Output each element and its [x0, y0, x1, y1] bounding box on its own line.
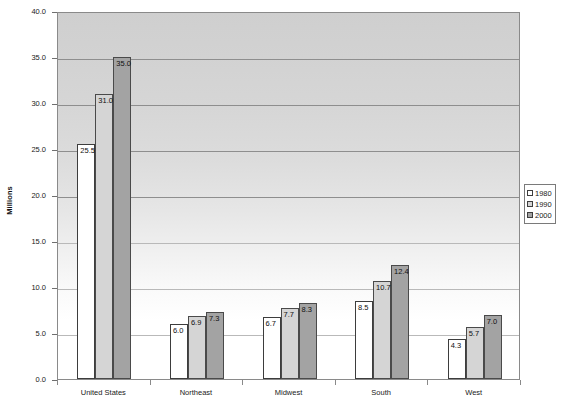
y-tick-label: 30.0	[0, 100, 46, 108]
legend-label-1990: 1990	[535, 200, 552, 209]
y-tick-label: 15.0	[0, 238, 46, 246]
bar-northeast-2000: 7.3	[206, 312, 224, 379]
y-tick-label: 35.0	[0, 54, 46, 62]
bar-west-2000: 7.0	[484, 315, 502, 379]
x-category-label-midwest: Midwest	[242, 388, 335, 397]
bar-value-label: 25.5	[79, 146, 96, 156]
bar-chart: Millions 0.05.010.015.020.025.030.035.04…	[0, 0, 565, 413]
x-tick-mark	[57, 380, 58, 385]
x-category-label-united-states: United States	[57, 388, 150, 397]
y-tick-label: 0.0	[0, 376, 46, 384]
y-tick-label: 40.0	[0, 8, 46, 16]
bar-value-label: 8.3	[301, 305, 313, 315]
legend-swatch-icon-1990	[527, 201, 533, 207]
y-tick-label: 10.0	[0, 284, 46, 292]
bar-value-label: 5.7	[468, 329, 480, 339]
bar-west-1990: 5.7	[466, 327, 484, 379]
legend-swatch-icon-2000	[527, 212, 533, 218]
bar-midwest-1990: 7.7	[281, 308, 299, 379]
y-axis-title: Millions	[5, 171, 14, 231]
x-tick-mark	[427, 380, 428, 385]
bar-midwest-1980: 6.7	[263, 317, 281, 379]
bar-south-1990: 10.7	[373, 281, 391, 379]
legend-label-2000: 2000	[535, 211, 552, 220]
bar-united-states-2000: 35.0	[113, 57, 131, 379]
bar-value-label: 10.7	[375, 283, 392, 293]
legend-swatch-icon-1980	[527, 190, 533, 196]
legend-item-2000[interactable]: 2000	[527, 210, 552, 220]
x-tick-mark	[335, 380, 336, 385]
bar-northeast-1980: 6.0	[170, 324, 188, 379]
y-tick-label: 25.0	[0, 146, 46, 154]
plot-area: 25.531.035.06.06.97.36.77.78.38.510.712.…	[57, 12, 520, 380]
x-tick-mark	[520, 380, 521, 385]
bar-south-2000: 12.4	[391, 265, 409, 379]
x-tick-mark	[242, 380, 243, 385]
bar-west-1980: 4.3	[448, 339, 466, 379]
x-category-label-south: South	[335, 388, 428, 397]
legend-label-1980: 1980	[535, 189, 552, 198]
x-category-label-northeast: Northeast	[150, 388, 243, 397]
x-tick-mark	[150, 380, 151, 385]
bar-value-label: 31.0	[97, 96, 114, 106]
y-tick-label: 5.0	[0, 330, 46, 338]
bar-midwest-2000: 8.3	[299, 303, 317, 379]
bar-value-label: 7.0	[486, 317, 498, 327]
bar-value-label: 6.0	[172, 326, 184, 336]
legend-item-1990[interactable]: 1990	[527, 199, 552, 209]
y-tick-label: 20.0	[0, 192, 46, 200]
bar-south-1980: 8.5	[355, 301, 373, 379]
bar-value-label: 7.3	[208, 314, 220, 324]
legend: 1980 1990 2000	[524, 184, 556, 224]
bar-value-label: 35.0	[115, 59, 132, 69]
bar-value-label: 12.4	[393, 267, 410, 277]
legend-item-1980[interactable]: 1980	[527, 188, 552, 198]
bar-united-states-1990: 31.0	[95, 94, 113, 379]
bar-united-states-1980: 25.5	[77, 144, 95, 379]
bar-value-label: 7.7	[283, 310, 295, 320]
bar-northeast-1990: 6.9	[188, 316, 206, 379]
x-category-label-west: West	[427, 388, 520, 397]
bar-value-label: 6.7	[265, 319, 277, 329]
bars-layer: 25.531.035.06.06.97.36.77.78.38.510.712.…	[58, 13, 519, 379]
bar-value-label: 6.9	[190, 318, 202, 328]
bar-value-label: 8.5	[357, 303, 369, 313]
bar-value-label: 4.3	[450, 341, 462, 351]
